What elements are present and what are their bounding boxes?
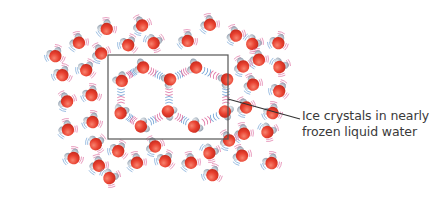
oxygen-atom — [159, 103, 176, 120]
oxygen-atom — [65, 150, 82, 167]
water-molecule — [176, 149, 203, 176]
water-molecule — [78, 108, 105, 135]
water-molecule — [265, 30, 290, 55]
water-molecule — [59, 144, 86, 171]
water-molecule — [221, 22, 248, 49]
water-molecule — [196, 138, 223, 165]
water-molecule — [254, 117, 281, 144]
water-molecule — [49, 62, 74, 87]
hydrogen-bond — [148, 113, 163, 125]
water-molecule — [116, 33, 138, 56]
water-molecule — [257, 149, 284, 176]
label-line-1: Ice crystals in nearly — [302, 108, 429, 124]
highlight-box — [108, 55, 228, 139]
water-molecule — [77, 81, 104, 108]
water-molecule — [239, 29, 266, 56]
water-molecule — [195, 11, 222, 38]
water-molecule — [92, 15, 119, 42]
water-molecule — [258, 99, 285, 126]
water-molecule — [266, 52, 293, 79]
oxygen-atom — [113, 72, 130, 89]
water-molecule — [267, 79, 289, 102]
water-molecule — [74, 58, 96, 81]
oxygen-atom — [84, 114, 101, 131]
oxygen-atom — [263, 155, 280, 172]
figure-label: Ice crystals in nearly frozen liquid wat… — [302, 108, 429, 140]
hydrogen-bond — [202, 67, 219, 79]
oxygen-atom — [83, 87, 100, 104]
water-molecule — [64, 29, 91, 56]
water-molecule — [111, 70, 131, 90]
water-molecule — [42, 43, 67, 68]
water-molecules — [42, 11, 293, 190]
hydrogen-bond — [118, 89, 125, 103]
hydrogen-bond — [175, 113, 189, 125]
hydrogen-bond — [202, 113, 219, 126]
water-molecule — [53, 89, 78, 114]
oxygen-atom — [185, 118, 202, 135]
water-molecule — [232, 95, 257, 120]
water-molecule — [53, 116, 80, 143]
water-molecule — [141, 29, 166, 54]
hydrogen-bond — [166, 89, 173, 103]
ice-crystal-diagram — [0, 0, 431, 203]
hydrogen-bond — [175, 68, 189, 79]
oxygen-atom — [219, 71, 236, 88]
water-molecule — [227, 142, 254, 169]
hydrogen-bond — [126, 114, 137, 124]
hydrogen-bond — [148, 68, 162, 80]
water-molecule — [238, 71, 265, 98]
water-molecule — [173, 27, 200, 54]
water-molecule — [199, 162, 224, 187]
label-line-2: frozen liquid water — [302, 124, 429, 140]
water-molecule — [217, 70, 237, 90]
water-molecule — [106, 139, 128, 162]
water-molecule — [84, 132, 106, 155]
